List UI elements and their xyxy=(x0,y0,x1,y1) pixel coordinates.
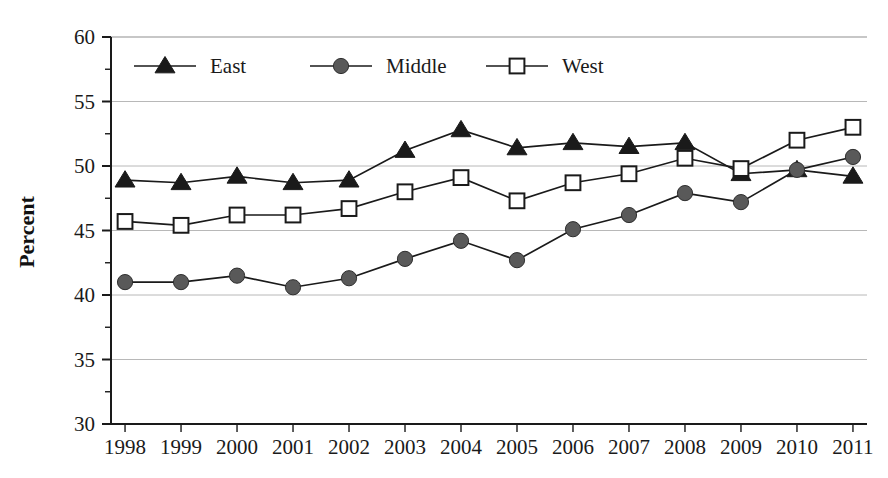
legend-label: West xyxy=(562,54,604,78)
y-tick-label: 30 xyxy=(74,412,95,436)
data-point xyxy=(789,162,804,177)
x-tick-label: 2011 xyxy=(832,435,873,459)
data-point xyxy=(678,151,693,166)
data-point xyxy=(118,214,133,229)
data-point xyxy=(395,141,415,157)
data-point xyxy=(342,201,357,216)
y-tick-label: 45 xyxy=(74,219,95,243)
data-point xyxy=(117,275,132,290)
x-tick-label: 2001 xyxy=(272,435,314,459)
data-series xyxy=(115,120,863,295)
data-point xyxy=(845,149,860,164)
data-point xyxy=(566,175,581,190)
data-point xyxy=(675,133,695,149)
axes xyxy=(102,37,867,432)
x-tick-label: 2005 xyxy=(496,435,538,459)
y-tick-label: 55 xyxy=(74,90,95,114)
chart-legend: EastMiddleWest xyxy=(134,54,604,78)
data-point xyxy=(453,233,468,248)
data-point xyxy=(174,218,189,233)
data-point xyxy=(621,207,636,222)
data-point xyxy=(565,222,580,237)
legend-label: Middle xyxy=(386,54,447,78)
legend-marker xyxy=(155,57,175,73)
data-point xyxy=(398,184,413,199)
legend-marker xyxy=(333,58,348,73)
y-tick-label: 40 xyxy=(74,283,95,307)
y-axis-title: Percent xyxy=(14,196,39,268)
x-tick-label: 2009 xyxy=(720,435,762,459)
legend-item-east: East xyxy=(134,54,246,78)
x-tick-label: 2003 xyxy=(384,435,426,459)
y-tick-label: 50 xyxy=(74,154,95,178)
legend-item-west: West xyxy=(486,54,604,78)
x-tick-label: 2004 xyxy=(440,435,483,459)
tick-labels: 3035404550556019981999200020012002200320… xyxy=(74,25,874,459)
legend-item-middle: Middle xyxy=(310,54,447,78)
data-point xyxy=(454,170,469,185)
x-tick-label: 2000 xyxy=(216,435,258,459)
y-tick-label: 35 xyxy=(74,348,95,372)
legend-label: East xyxy=(210,54,246,78)
data-point xyxy=(563,133,583,149)
x-tick-label: 2006 xyxy=(552,435,594,459)
x-tick-label: 2010 xyxy=(776,435,818,459)
legend-marker xyxy=(510,59,525,74)
x-tick-label: 1999 xyxy=(160,435,202,459)
line-chart: 3035404550556019981999200020012002200320… xyxy=(0,0,888,478)
data-point xyxy=(510,193,525,208)
data-point xyxy=(733,195,748,210)
series-west xyxy=(118,120,861,233)
series-east xyxy=(115,120,863,189)
data-point xyxy=(790,133,805,148)
data-point xyxy=(173,275,188,290)
data-point xyxy=(230,208,245,223)
data-point xyxy=(509,253,524,268)
x-tick-label: 2008 xyxy=(664,435,706,459)
data-point xyxy=(341,271,356,286)
data-point xyxy=(286,208,301,223)
gridlines xyxy=(111,37,867,424)
data-point xyxy=(734,161,749,176)
data-point xyxy=(677,185,692,200)
data-point xyxy=(451,120,471,136)
x-tick-label: 2007 xyxy=(608,435,650,459)
data-point xyxy=(397,251,412,266)
data-point xyxy=(285,280,300,295)
x-tick-label: 1998 xyxy=(104,435,146,459)
data-point xyxy=(115,171,135,187)
data-point xyxy=(229,268,244,283)
data-point xyxy=(622,166,637,181)
x-tick-label: 2002 xyxy=(328,435,370,459)
y-tick-label: 60 xyxy=(74,25,95,49)
data-point xyxy=(846,120,861,135)
chart-container: 3035404550556019981999200020012002200320… xyxy=(0,0,888,478)
data-point xyxy=(227,167,247,183)
data-point xyxy=(339,171,359,187)
